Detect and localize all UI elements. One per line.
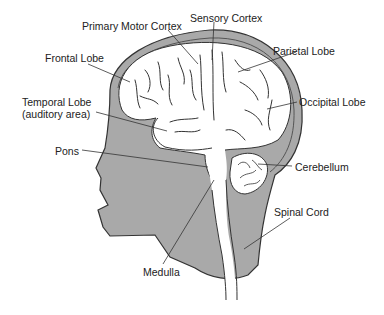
label-occipital-lobe: Occipital Lobe: [299, 96, 366, 108]
label-pons: Pons: [55, 145, 79, 157]
label-cerebellum: Cerebellum: [295, 161, 349, 173]
label-primary-motor-cortex: Primary Motor Cortex: [82, 20, 182, 32]
label-temporal-lobe-sub: (auditory area): [22, 108, 90, 120]
label-medulla: Medulla: [143, 266, 180, 278]
label-temporal-lobe: Temporal Lobe: [22, 96, 91, 108]
label-parietal-lobe: Parietal Lobe: [273, 45, 335, 57]
label-sensory-cortex: Sensory Cortex: [190, 12, 262, 24]
label-frontal-lobe: Frontal Lobe: [45, 52, 104, 64]
label-spinal-cord: Spinal Cord: [274, 206, 329, 218]
